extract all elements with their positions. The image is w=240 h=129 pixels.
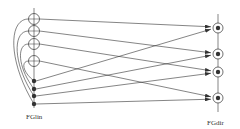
- nodes: [29, 14, 224, 107]
- connection-arrow: [40, 19, 212, 27]
- filled-node-icon: [32, 94, 36, 98]
- target-node-dot-icon: [216, 52, 220, 56]
- axis-lines: [34, 8, 218, 112]
- connection-arrow: [36, 73, 211, 96]
- connection-arrow: [36, 55, 211, 89]
- filled-node-icon: [32, 87, 36, 91]
- filled-node-icon: [32, 79, 36, 83]
- target-node-dot-icon: [216, 26, 220, 30]
- connection-arrows: [36, 19, 211, 104]
- fglin-label: FGlin: [26, 113, 42, 121]
- target-node-dot-icon: [216, 70, 220, 74]
- target-node-dot-icon: [216, 96, 220, 100]
- connection-arrow: [36, 99, 211, 104]
- fgdir-label: FGdir: [207, 119, 224, 127]
- connection-arrow: [40, 61, 212, 97]
- connection-arrow: [36, 29, 211, 81]
- connection-arrow: [40, 31, 212, 53]
- filled-node-icon: [32, 102, 36, 106]
- network-diagram: [0, 0, 240, 129]
- connection-arrow: [40, 44, 212, 71]
